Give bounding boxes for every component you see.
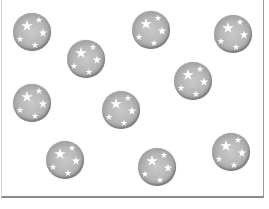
star-ball-3[interactable] [132,11,170,49]
star-icon [174,62,212,100]
star-ball-6[interactable] [13,84,51,122]
star-icon [138,148,176,186]
star-icon [132,11,170,49]
star-icon [67,40,105,78]
star-ball-2[interactable] [67,40,105,78]
star-ball-4[interactable] [214,15,252,53]
star-ball-5[interactable] [174,62,212,100]
star-icon [13,84,51,122]
star-ball-7[interactable] [102,91,140,129]
star-icon [212,133,250,171]
star-icon [214,15,252,53]
star-ball-8[interactable] [46,141,84,179]
star-icon [102,91,140,129]
star-icon [13,13,51,51]
star-ball-10[interactable] [212,133,250,171]
star-ball-9[interactable] [138,148,176,186]
star-icon [46,141,84,179]
star-ball-1[interactable] [13,13,51,51]
